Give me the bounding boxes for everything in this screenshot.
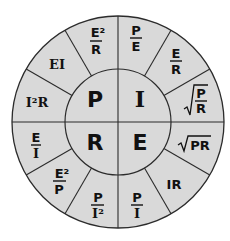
- segment-r-p-over-i-squared: P I²: [91, 190, 104, 221]
- svg-text:E: E: [32, 130, 41, 145]
- segment-i-p-over-e: P E: [130, 23, 142, 54]
- svg-text:I: I: [134, 206, 140, 221]
- svg-text:E: E: [132, 39, 141, 54]
- segment-e-ir: IR: [167, 177, 182, 192]
- svg-text:E²: E²: [91, 25, 106, 40]
- svg-text:P: P: [131, 23, 141, 38]
- svg-text:I: I: [33, 146, 39, 161]
- svg-text:E: E: [172, 46, 181, 61]
- svg-text:E²: E²: [55, 166, 70, 181]
- svg-text:R: R: [196, 101, 206, 116]
- segment-i-e-over-r: E R: [170, 46, 182, 77]
- svg-text:R: R: [171, 62, 181, 77]
- ohms-law-wheel: P I E R P E E R P R PR IR P I P I²: [0, 0, 230, 241]
- center-label-power: P: [87, 87, 103, 112]
- svg-text:P: P: [196, 86, 206, 101]
- svg-text:I²: I²: [92, 206, 104, 221]
- svg-text:R: R: [91, 42, 101, 57]
- center-label-voltage: E: [132, 130, 147, 155]
- svg-text:PR: PR: [190, 138, 210, 153]
- segment-p-ei: EI: [49, 57, 65, 72]
- segment-p-i-squared-r: I²R: [26, 95, 49, 110]
- center-label-resistance: R: [87, 130, 104, 155]
- svg-text:P: P: [54, 182, 64, 197]
- svg-text:P: P: [93, 190, 103, 205]
- svg-text:P: P: [132, 190, 142, 205]
- center-label-current: I: [135, 86, 145, 112]
